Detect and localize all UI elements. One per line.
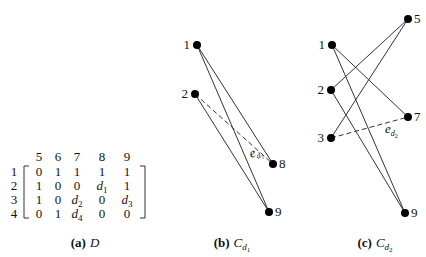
edge-1-7 <box>332 45 408 117</box>
node-2 <box>191 90 199 98</box>
node-label: 2 <box>318 82 325 97</box>
matrix-cell: 1 <box>74 164 81 179</box>
node-8 <box>269 160 277 168</box>
figure: 5 6 7 8 9 1 0 1 1 1 1 2 1 0 0 d1 1 3 <box>0 0 426 257</box>
node-9 <box>265 208 273 216</box>
node-label: 2 <box>182 86 189 101</box>
matrix-row: 4 0 1 d4 0 0 <box>11 206 131 223</box>
matrix-d: 5 6 7 8 9 1 0 1 1 1 1 2 1 0 0 d1 1 3 <box>11 149 145 250</box>
row-label: 4 <box>11 206 18 221</box>
row-label: 1 <box>11 164 18 179</box>
graph-c-d2: 1 2 3 5 7 9 ed2 (c)Cd2 <box>318 11 422 254</box>
caption-b: (b)Cd1 <box>214 235 251 254</box>
row-label: 2 <box>11 178 18 193</box>
row-label: 3 <box>11 192 18 207</box>
matrix-cell: 1 <box>124 164 131 179</box>
node-1 <box>193 41 201 49</box>
matrix-cell: 0 <box>55 192 62 207</box>
edge-1-8 <box>197 45 273 164</box>
matrix-cell: 0 <box>36 206 43 221</box>
column-header: 7 <box>74 149 81 164</box>
edge-label-e-d1: ed1 <box>247 142 265 163</box>
column-header: 9 <box>124 149 131 164</box>
matrix-cell: 0 <box>99 206 106 221</box>
matrix-cell: 1 <box>55 164 62 179</box>
left-bracket <box>24 166 29 218</box>
matrix-cell: 1 <box>36 178 43 193</box>
node-7 <box>404 113 412 121</box>
matrix-column-headers: 5 6 7 8 9 <box>36 149 131 164</box>
node-2 <box>327 86 335 94</box>
column-header: 5 <box>36 149 43 164</box>
node-5 <box>404 15 412 23</box>
graph-c-d1: 1 2 8 9 ed1 (b)Cd1 <box>182 37 286 254</box>
node-label: 3 <box>318 130 325 145</box>
matrix-cell: 1 <box>36 192 43 207</box>
node-label: 5 <box>414 11 421 26</box>
node-label: 1 <box>319 37 326 52</box>
matrix-cell: 0 <box>99 192 106 207</box>
caption-a: (a)D <box>71 235 100 250</box>
matrix-cell: 0 <box>124 206 131 221</box>
edge-2-9 <box>331 90 405 213</box>
matrix-cell: 1 <box>99 164 106 179</box>
node-label: 9 <box>411 205 418 220</box>
node-label: 1 <box>184 37 191 52</box>
matrix-cell: 0 <box>36 164 43 179</box>
edge-label-e-d2: ed2 <box>385 121 398 139</box>
node-label: 7 <box>414 109 421 124</box>
matrix-cell: 0 <box>74 178 81 193</box>
node-9 <box>401 209 409 217</box>
right-bracket <box>140 166 145 218</box>
node-label: 9 <box>275 204 282 219</box>
node-1 <box>328 41 336 49</box>
matrix-cell: 0 <box>55 178 62 193</box>
node-3 <box>327 134 335 142</box>
matrix-cell: 1 <box>55 206 62 221</box>
column-header: 6 <box>55 149 62 164</box>
matrix-cell: 1 <box>124 178 131 193</box>
matrix-row: 2 1 0 0 d1 1 <box>11 178 131 195</box>
node-label: 8 <box>279 156 286 171</box>
caption-c: (c)Cd2 <box>357 235 393 254</box>
column-header: 8 <box>99 149 106 164</box>
